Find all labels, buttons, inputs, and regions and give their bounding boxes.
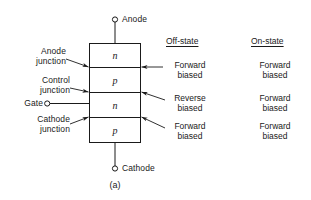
off-state-cell-2-line2: biased — [160, 103, 220, 114]
cathode-terminal-circle — [112, 166, 117, 171]
cathode-junction-label-line2: junction — [0, 124, 70, 135]
cathode-junction-label-line1: Cathode — [0, 114, 70, 125]
thyristor-structure-figure: n p n p Anode Cathode Gate Anode junctio… — [0, 0, 311, 200]
anode-terminal-label: Anode — [122, 14, 147, 25]
layer-letter-n2: n — [90, 101, 141, 111]
on-state-cell-1-line1: Forward — [245, 60, 305, 71]
anode-junction-leader — [66, 59, 89, 67]
off-state-cell-2-line1: Reverse — [160, 93, 220, 104]
on-state-cell-3-line2: biased — [245, 131, 305, 142]
anode-junction-label-line1: Anode — [0, 46, 66, 57]
off-state-cell-1-line2: biased — [160, 70, 220, 81]
on-state-cell-2-line1: Forward — [245, 93, 305, 104]
layer-letter-p1: p — [90, 76, 141, 86]
anode-terminal-circle — [112, 17, 117, 22]
gate-terminal-label: Gate — [2, 98, 43, 109]
gate-terminal-circle — [45, 101, 50, 106]
control-junction-leader — [70, 88, 89, 92]
layer-letter-n1: n — [90, 51, 141, 61]
anode-junction-label-line2: junction — [0, 56, 66, 67]
control-junction-label-line1: Control — [0, 75, 70, 86]
off-state-cell-3-line1: Forward — [160, 121, 220, 132]
off-state-cell-3-line2: biased — [160, 131, 220, 142]
control-junction-label-line2: junction — [0, 85, 70, 96]
cathode-terminal-label: Cathode — [122, 163, 155, 174]
on-state-cell-2-line2: biased — [245, 103, 305, 114]
cathode-junction-leader — [70, 117, 89, 124]
off-state-heading: Off-state — [166, 36, 198, 46]
figure-caption: (a) — [90, 180, 140, 190]
on-state-heading: On-state — [251, 36, 284, 46]
layer-letter-p2: p — [90, 126, 141, 136]
off-state-cell-1-line1: Forward — [160, 60, 220, 71]
on-state-cell-3-line1: Forward — [245, 121, 305, 132]
on-state-cell-1-line2: biased — [245, 70, 305, 81]
